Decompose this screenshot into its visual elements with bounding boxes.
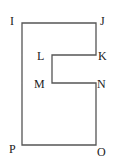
vertex-label-j: J [100, 14, 105, 28]
vertex-label-l: L [37, 49, 44, 63]
vertex-label-n: N [97, 77, 106, 91]
vertex-label-k: K [98, 49, 107, 63]
vertex-label-p: P [9, 142, 16, 156]
vertex-label-i: I [10, 14, 14, 28]
vertex-label-m: M [34, 77, 45, 91]
polygon-figure: I J K L M N O P [0, 0, 114, 159]
diagram-canvas: I J K L M N O P [0, 0, 114, 159]
vertex-label-o: O [97, 145, 106, 159]
